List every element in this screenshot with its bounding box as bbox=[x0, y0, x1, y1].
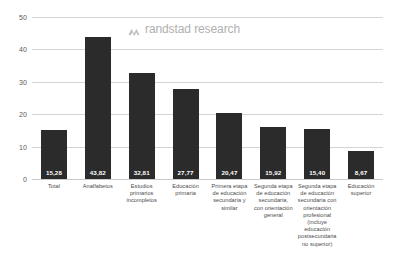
y-axis-tick-label: 40 bbox=[19, 46, 27, 53]
bar-chart: randstad research 01020304050 15,2843,82… bbox=[0, 0, 396, 259]
bar[interactable]: 32,81 bbox=[129, 73, 155, 179]
y-axis-tick-label: 20 bbox=[19, 111, 27, 118]
bars-layer: 15,2843,8232,8127,7720,4715,9215,408,67 bbox=[32, 17, 383, 179]
bar-slot: 8,67 bbox=[348, 17, 374, 179]
bar[interactable]: 8,67 bbox=[348, 151, 374, 179]
category-label: Analfabetos bbox=[78, 183, 118, 190]
bar-slot: 43,82 bbox=[85, 17, 111, 179]
bar[interactable]: 15,92 bbox=[260, 127, 286, 179]
y-axis-tick-label: 0 bbox=[23, 176, 27, 183]
y-axis-tick-label: 10 bbox=[19, 143, 27, 150]
y-axis-tick-label: 30 bbox=[19, 78, 27, 85]
bar-slot: 32,81 bbox=[129, 17, 155, 179]
bar-value-label: 8,67 bbox=[348, 169, 374, 176]
bar-slot: 27,77 bbox=[173, 17, 199, 179]
bar-value-label: 43,82 bbox=[85, 169, 111, 176]
category-label: Estudios primarios incompletos bbox=[122, 183, 162, 205]
bar-value-label: 20,47 bbox=[216, 169, 242, 176]
bar-value-label: 32,81 bbox=[129, 169, 155, 176]
bar-value-label: 15,40 bbox=[304, 169, 330, 176]
category-label: Segunda etapa de educación secundaria, c… bbox=[253, 183, 293, 219]
category-label: Total bbox=[34, 183, 74, 190]
bar[interactable]: 27,77 bbox=[173, 89, 199, 179]
category-axis-labels: TotalAnalfabetosEstudios primarios incom… bbox=[32, 183, 383, 257]
bar-slot: 15,40 bbox=[304, 17, 330, 179]
bar[interactable]: 20,47 bbox=[216, 113, 242, 179]
bar[interactable]: 15,28 bbox=[41, 130, 67, 180]
category-label: Educación superior bbox=[341, 183, 381, 197]
bar-value-label: 15,28 bbox=[41, 169, 67, 176]
category-label: Segunda etapa de educación secundaria co… bbox=[297, 183, 337, 248]
bar-value-label: 15,92 bbox=[260, 169, 286, 176]
bar-slot: 20,47 bbox=[216, 17, 242, 179]
bar-slot: 15,28 bbox=[41, 17, 67, 179]
category-label: Educación primaria bbox=[166, 183, 206, 197]
category-label: Primera etapa de educación secundaria y … bbox=[210, 183, 250, 212]
y-axis-tick-label: 50 bbox=[19, 14, 27, 21]
plot-area: 01020304050 15,2843,8232,8127,7720,4715,… bbox=[32, 17, 383, 179]
bar[interactable]: 43,82 bbox=[85, 37, 111, 179]
bar[interactable]: 15,40 bbox=[304, 129, 330, 179]
gridline: 0 bbox=[32, 179, 383, 180]
bar-value-label: 27,77 bbox=[173, 169, 199, 176]
bar-slot: 15,92 bbox=[260, 17, 286, 179]
